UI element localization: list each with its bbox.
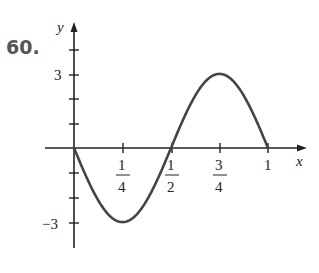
svg-text:3: 3 xyxy=(215,157,223,173)
svg-text:1: 1 xyxy=(118,157,126,173)
graph: 60. y x 3 −3 1 4 1 2 3 4 1 xyxy=(0,0,319,273)
svg-text:4: 4 xyxy=(215,179,223,195)
problem-number: 60. xyxy=(6,36,40,58)
x-tick-label-half: 1 2 xyxy=(165,157,179,195)
x-tick-label-quarter: 1 4 xyxy=(116,157,130,195)
x-axis-label: x xyxy=(295,153,303,169)
x-tick-label-three-quarters: 3 4 xyxy=(213,157,227,195)
x-axis-arrow-icon xyxy=(297,145,307,152)
y-tick-label-3: 3 xyxy=(54,67,62,83)
svg-text:1: 1 xyxy=(167,157,175,173)
y-axis-arrow-icon xyxy=(71,22,78,32)
y-tick-label-neg3: −3 xyxy=(42,216,58,232)
x-tick-label-1: 1 xyxy=(264,157,272,173)
y-axis-label: y xyxy=(55,19,64,35)
svg-text:2: 2 xyxy=(167,179,175,195)
svg-text:4: 4 xyxy=(118,179,126,195)
